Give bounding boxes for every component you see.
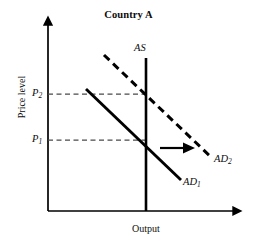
- page-title: Country A: [0, 10, 257, 21]
- as-curve-label-text: AS: [134, 42, 146, 53]
- y-axis-tick-p1: P1: [32, 134, 42, 145]
- ad2-curve-label-subscript: 2: [228, 157, 232, 166]
- ad-as-diagram-figure: Country A Price level Output AS AD1 AD2 …: [0, 0, 257, 242]
- ad1-curve: [86, 89, 181, 180]
- diagram-canvas: [0, 0, 257, 242]
- as-curve-label: AS: [134, 43, 146, 54]
- ad1-curve-label-subscript: 1: [197, 180, 201, 189]
- y-axis-tick-p1-subscript: 1: [38, 137, 42, 146]
- ad1-curve-label: AD1: [183, 177, 201, 188]
- y-axis-tick-p2: P2: [32, 88, 42, 99]
- y-axis-tick-p2-subscript: 2: [38, 91, 42, 100]
- ad2-curve-label: AD2: [214, 154, 232, 165]
- ad1-curve-label-text: AD: [183, 176, 197, 187]
- x-axis-label: Output: [96, 224, 196, 234]
- ad2-curve-label-text: AD: [214, 153, 228, 164]
- ad2-curve: [104, 55, 212, 158]
- y-axis-label: Price level: [17, 58, 27, 136]
